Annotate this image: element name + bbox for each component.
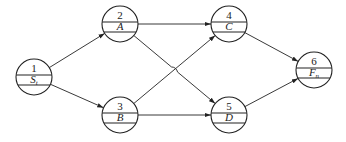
edge-5-to-6 bbox=[245, 78, 298, 106]
node-label-main: A bbox=[116, 20, 124, 32]
edges bbox=[49, 24, 298, 115]
edge-4-to-6 bbox=[245, 33, 298, 62]
node-label-main: C bbox=[225, 20, 233, 32]
node-1: 1St bbox=[16, 59, 52, 95]
network-diagram: 1St2A3B4C5D6Fn bbox=[0, 0, 346, 142]
node-label: D bbox=[224, 111, 233, 123]
node-label-main: B bbox=[117, 111, 124, 123]
node-label-main: D bbox=[224, 111, 233, 123]
node-label-subscript: n bbox=[316, 72, 320, 80]
node-6: 6Fn bbox=[296, 52, 332, 88]
node-label: B bbox=[117, 111, 124, 123]
node-5: 5D bbox=[211, 97, 247, 133]
node-4: 4C bbox=[211, 6, 247, 42]
node-2: 2A bbox=[102, 6, 138, 42]
node-3: 3B bbox=[102, 97, 138, 133]
node-label: C bbox=[225, 20, 233, 32]
node-label: A bbox=[116, 20, 124, 32]
edge-1-to-3 bbox=[51, 84, 104, 107]
edge-1-to-2 bbox=[49, 33, 104, 67]
